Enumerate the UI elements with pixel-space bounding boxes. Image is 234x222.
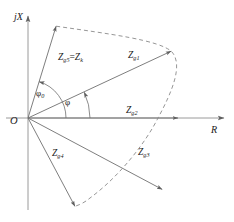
- labels-group: jX R O φ0 φ Zg5=Zk Zg1 Zg2 Zg3 Zg4: [10, 11, 217, 159]
- vector-zg1: [28, 51, 171, 118]
- angle-label-phi: φ: [65, 97, 70, 107]
- impedance-phasor-figure: jX R O φ0 φ Zg5=Zk Zg1 Zg2 Zg3 Zg4: [0, 0, 234, 222]
- angle-label-phi-zero: φ0: [36, 88, 45, 99]
- angle-arc-phi-zero: [39, 82, 66, 118]
- vector-label-zg2: Zg2: [126, 105, 137, 116]
- vector-label-zg4: Zg4: [52, 148, 63, 159]
- vectors-group: [28, 26, 178, 206]
- vector-zg4: [28, 118, 75, 206]
- angle-arc-phi: [84, 92, 90, 118]
- vector-label-zg3: Zg3: [138, 147, 149, 158]
- origin-label: O: [10, 115, 18, 126]
- phasor-diagram-canvas: jX R O φ0 φ Zg5=Zk Zg1 Zg2 Zg3 Zg4: [0, 0, 234, 222]
- vertical-axis-label: jX: [12, 11, 24, 22]
- horizontal-axis-label: R: [210, 124, 217, 135]
- vector-zg5: [28, 26, 56, 118]
- vector-label-zg1: Zg1: [128, 50, 139, 61]
- vector-label-zg5: Zg5=Zk: [58, 52, 83, 63]
